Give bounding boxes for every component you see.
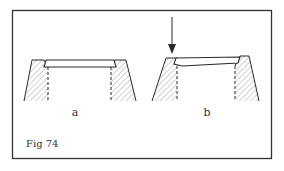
insert-b — [174, 57, 240, 66]
figure-caption: Fig 74 — [26, 138, 58, 149]
figure-diagram: a b Fig 74 — [0, 0, 284, 171]
panel-label-a: a — [72, 106, 79, 119]
figure-frame — [13, 11, 272, 159]
panel-label-b: b — [203, 106, 210, 119]
insert-a — [44, 60, 116, 67]
panel-b: b — [152, 17, 259, 119]
panel-a: a — [24, 60, 136, 119]
